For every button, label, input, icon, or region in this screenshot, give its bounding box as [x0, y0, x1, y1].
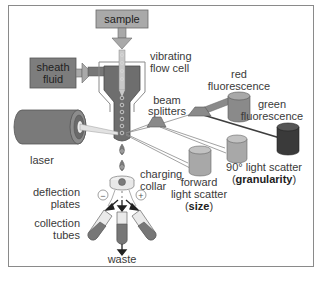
charging-label-2: collar [140, 180, 167, 192]
green-fluorescence-detector [277, 123, 299, 155]
sheath-fluid-box: sheath fluid [30, 58, 76, 88]
laser [14, 110, 86, 144]
flow-cytometer-diagram: sample sheath fluid vibrating flow cell [0, 0, 327, 286]
vibrating-label-1: vibrating [150, 50, 192, 62]
sample-box: sample [96, 10, 148, 28]
sample-label: sample [104, 13, 139, 25]
deflection-label-1: deflection [33, 186, 80, 198]
collection-tube-right [132, 210, 156, 240]
forward-close: ) [209, 200, 213, 212]
granularity-label: granularity [236, 173, 294, 185]
deflection-label-2: plates [51, 198, 81, 210]
sheath-label-2: fluid [43, 73, 63, 85]
side-scatter-detector [227, 135, 247, 163]
forward-scatter-label-1: forward [181, 176, 218, 188]
collection-tube-center [117, 212, 127, 244]
charging-collar [110, 176, 134, 190]
forward-scatter-detector [189, 146, 211, 176]
minus-sign: − [100, 191, 105, 201]
beam-splitters-label-2: splitters [148, 105, 186, 117]
negative-plate: − [98, 190, 108, 201]
collection-label-1: collection [34, 217, 80, 229]
forward-scatter-label-3: (size) [185, 200, 213, 212]
forward-scatter-label-2: light scatter [171, 188, 228, 200]
collection-label-2: tubes [53, 229, 80, 241]
size-label: size [189, 200, 210, 212]
beam-splitter-1 [147, 117, 166, 127]
vibrating-label-2: flow cell [150, 62, 189, 74]
sheath-inlet-pipe [88, 67, 106, 76]
vibrating-flow-cell [99, 50, 145, 141]
sheath-label-1: sheath [36, 61, 69, 73]
sample-arrow [112, 28, 132, 49]
green-fluorescence-label-1: green [258, 98, 286, 110]
side-scatter-label-1: 90° light scatter [226, 161, 302, 173]
waste-label: waste [107, 253, 137, 265]
collection-tube-left [88, 210, 112, 240]
laser-label: laser [30, 154, 54, 166]
side-scatter-close: ) [292, 173, 296, 185]
positive-plate: + [136, 190, 146, 201]
plus-sign: + [138, 191, 143, 201]
deflection-stream [121, 191, 123, 198]
green-fluorescence-label-2: fluorescence [241, 110, 303, 122]
droplets [120, 144, 125, 171]
side-scatter-label-2: (granularity) [232, 173, 296, 185]
red-fluorescence-label-2: fluorescence [208, 80, 270, 92]
charging-label-1: charging [140, 168, 182, 180]
red-fluorescence-label-1: red [231, 68, 247, 80]
